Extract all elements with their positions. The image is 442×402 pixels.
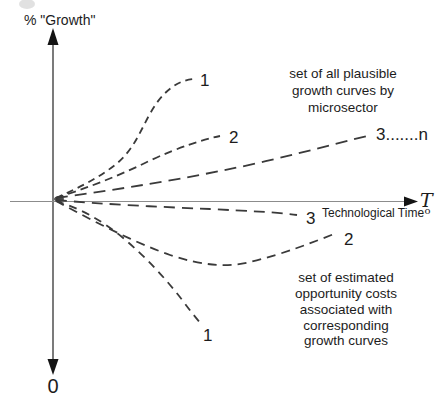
x-axis bbox=[10, 197, 418, 207]
y-axis-zero-label: 0 bbox=[47, 375, 58, 397]
upper-annotation-line-1: set of all plausible bbox=[289, 66, 396, 81]
lower-annotation-line-4: corresponding bbox=[303, 318, 389, 333]
diagram-canvas: % "Growth" 0 Technological Time T o 1 2 … bbox=[0, 0, 442, 402]
upper-curve-label-3n: 3.......n bbox=[376, 125, 428, 144]
growth-curves-diagram: % "Growth" 0 Technological Time T o 1 2 … bbox=[0, 0, 442, 402]
lower-annotation-line-3: associated with bbox=[300, 302, 392, 317]
lower-cost-curve-1 bbox=[56, 201, 201, 324]
lower-curve-label-3: 3 bbox=[306, 209, 315, 228]
lower-cost-curve-3 bbox=[56, 200, 297, 215]
lower-annotation-line-5: growth curves bbox=[304, 333, 388, 348]
x-axis-label: Technological Time bbox=[322, 206, 424, 220]
upper-curve-label-2: 2 bbox=[229, 128, 238, 147]
lower-annotation: set of estimated opportunity costs assoc… bbox=[295, 270, 397, 348]
lower-curve-label-2: 2 bbox=[344, 230, 353, 249]
upper-growth-curve-3n bbox=[56, 135, 371, 198]
upper-annotation-line-2: growth curves by bbox=[292, 83, 394, 98]
scan-smudge bbox=[19, 0, 35, 9]
upper-growth-curve-2 bbox=[56, 136, 220, 198]
y-axis-down-arrowhead bbox=[48, 359, 59, 375]
lower-annotation-line-1: set of estimated bbox=[298, 270, 393, 285]
upper-annotation: set of all plausible growth curves by mi… bbox=[289, 66, 396, 115]
upper-curve-label-1: 1 bbox=[200, 71, 209, 90]
y-axis-label: % "Growth" bbox=[24, 12, 95, 28]
x-axis-right-arrowhead bbox=[404, 197, 418, 207]
lower-annotation-line-2: opportunity costs bbox=[295, 286, 397, 301]
time-terminal-symbol-subscript: o bbox=[425, 205, 431, 216]
lower-cost-curve-2 bbox=[56, 201, 334, 265]
lower-curve-label-1: 1 bbox=[203, 326, 212, 345]
upper-annotation-line-3: microsector bbox=[308, 100, 378, 115]
y-axis-up-arrowhead bbox=[48, 28, 59, 45]
